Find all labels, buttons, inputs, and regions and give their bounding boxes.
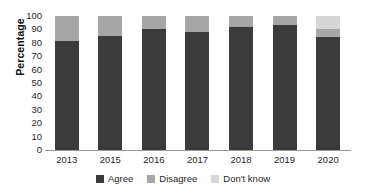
bar-column[interactable]	[229, 16, 253, 150]
bar-segment[interactable]	[55, 41, 79, 150]
y-tick-label: 100	[26, 11, 42, 21]
bar-segment[interactable]	[316, 16, 340, 29]
y-tick-label: 60	[31, 65, 42, 75]
legend-label: Don't know	[223, 174, 270, 184]
bar-segment[interactable]	[98, 36, 122, 150]
legend-item[interactable]: Disagree	[147, 174, 197, 184]
bar-column[interactable]	[273, 16, 297, 150]
y-tick-label: 10	[31, 132, 42, 142]
bar-column[interactable]	[98, 16, 122, 150]
x-axis-line	[45, 150, 351, 151]
bar-segment[interactable]	[316, 29, 340, 37]
legend-item[interactable]: Don't know	[211, 174, 270, 184]
x-tick-label: 2020	[316, 153, 340, 167]
y-tick-label: 90	[31, 25, 42, 35]
bar-segment[interactable]	[185, 32, 209, 150]
x-tick-label: 2019	[273, 153, 297, 167]
legend-swatch-icon	[147, 175, 155, 183]
y-tick-label: 70	[31, 51, 42, 61]
bar-segment[interactable]	[229, 16, 253, 27]
bar-segment[interactable]	[98, 16, 122, 36]
x-tick-label: 2018	[229, 153, 253, 167]
bar-segment[interactable]	[142, 29, 166, 150]
x-tick-label: 2017	[185, 153, 209, 167]
y-tick-label: 0	[37, 145, 42, 155]
plot-area-bars	[45, 16, 350, 150]
y-tick-label: 20	[31, 118, 42, 128]
x-tick-label: 2015	[98, 153, 122, 167]
chart-container: Percentage 1009080706050403020100 201320…	[0, 0, 366, 195]
x-tick-label: 2016	[142, 153, 166, 167]
y-tick-label: 50	[31, 78, 42, 88]
chart-legend: AgreeDisagreeDon't know	[0, 174, 366, 184]
bar-segment[interactable]	[316, 37, 340, 150]
legend-swatch-icon	[211, 175, 219, 183]
bar-segment[interactable]	[185, 16, 209, 32]
x-tick-label: 2013	[55, 153, 79, 167]
x-axis-tick-labels: 2013201520162017201820192020	[45, 153, 350, 167]
legend-item[interactable]: Agree	[96, 174, 133, 184]
y-axis-tick-labels: 1009080706050403020100	[16, 16, 42, 150]
legend-label: Disagree	[159, 174, 197, 184]
bar-segment[interactable]	[273, 25, 297, 150]
bar-column[interactable]	[185, 16, 209, 150]
y-tick-label: 80	[31, 38, 42, 48]
legend-label: Agree	[108, 174, 133, 184]
legend-swatch-icon	[96, 175, 104, 183]
y-tick-label: 40	[31, 92, 42, 102]
bar-column[interactable]	[142, 16, 166, 150]
y-tick-label: 30	[31, 105, 42, 115]
bar-segment[interactable]	[142, 16, 166, 29]
bar-segment[interactable]	[55, 16, 79, 41]
bar-segment[interactable]	[273, 16, 297, 25]
bar-column[interactable]	[316, 16, 340, 150]
bar-segment[interactable]	[229, 27, 253, 150]
bar-column[interactable]	[55, 16, 79, 150]
